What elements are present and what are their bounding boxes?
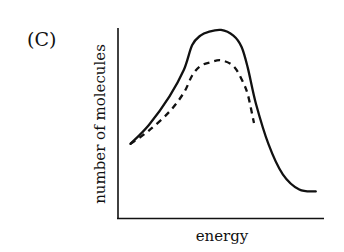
figure: (C) number of molecules energy: [0, 0, 344, 252]
solid-curve: [130, 30, 315, 192]
plot-area: [0, 0, 344, 252]
dashed-curve: [130, 60, 254, 144]
